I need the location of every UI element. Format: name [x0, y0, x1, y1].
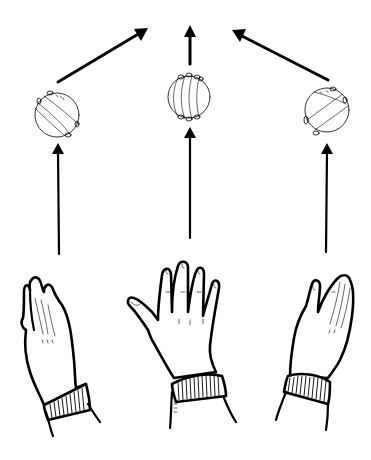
hand-arrow-center [184, 127, 196, 238]
illustration-canvas [0, 0, 371, 460]
ball-left [35, 91, 79, 137]
top-arrow-center [184, 25, 196, 64]
ball-center [168, 73, 210, 121]
hand-right [276, 275, 353, 430]
ball-right [304, 87, 349, 135]
top-arrow-left [58, 28, 148, 82]
hand-arrow-left [52, 143, 64, 254]
top-arrow-right [232, 29, 328, 80]
hand-center [128, 262, 236, 428]
hand-left [22, 278, 100, 436]
hand-arrow-right [321, 143, 333, 252]
